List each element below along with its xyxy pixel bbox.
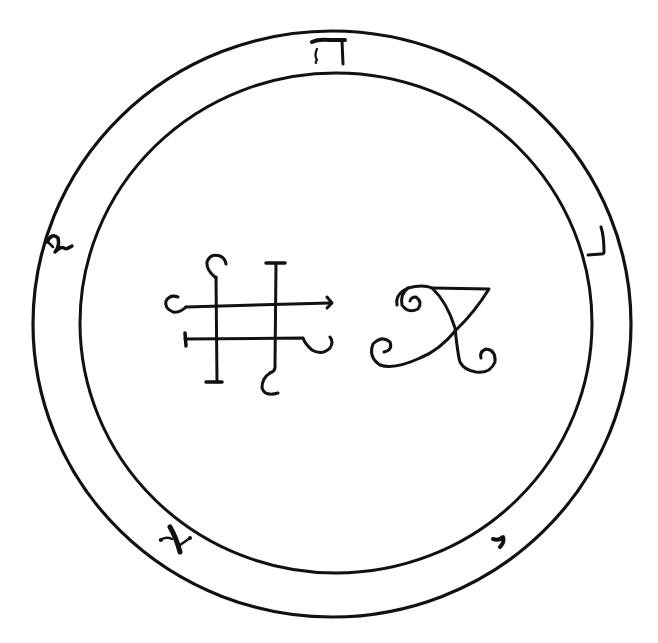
letter-right: [588, 227, 604, 255]
spiral-sigil: [372, 286, 496, 372]
seal-diagram: ה ל ר א י: [0, 0, 658, 643]
letter-yod-bottom-right: [493, 537, 504, 547]
letter-left: [47, 236, 72, 252]
lattice-sigil: [166, 255, 332, 394]
inner-ring: [80, 73, 592, 573]
letter-he-top: [312, 40, 345, 64]
letter-aleph-bottom-left: [159, 527, 192, 552]
outer-ring: [33, 31, 631, 617]
